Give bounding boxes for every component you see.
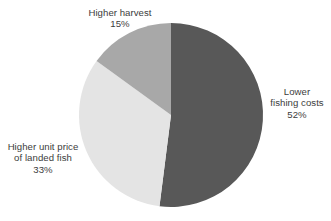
pie-label-lower-fishing-costs-line2: fishing costs	[263, 97, 331, 108]
pie-label-lower-fishing-costs-line1: Lower	[263, 86, 331, 97]
pie-label-higher-unit-price: Higher unit price of landed fish 33%	[2, 141, 84, 175]
pie-label-lower-fishing-costs-value: 52%	[263, 109, 331, 120]
pie-label-higher-unit-price-value: 33%	[2, 164, 84, 175]
pie-slice-lower-fishing-costs[interactable]	[159, 23, 263, 207]
pie-label-lower-fishing-costs: Lower fishing costs 52%	[263, 86, 331, 120]
pie-label-higher-unit-price-line1: Higher unit price	[2, 141, 84, 152]
pie-chart-figure: Higher harvest 15% Lower fishing costs 5…	[0, 0, 331, 221]
pie-label-higher-unit-price-line2: of landed fish	[2, 152, 84, 163]
pie-label-higher-harvest-value: 15%	[60, 18, 180, 29]
pie-label-higher-harvest-line1: Higher harvest	[60, 7, 180, 18]
pie-label-higher-harvest: Higher harvest 15%	[60, 7, 180, 30]
